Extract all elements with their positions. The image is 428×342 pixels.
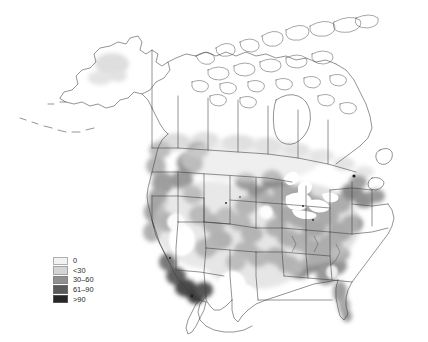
legend-item-61-90[interactable]: 61–90 bbox=[53, 285, 94, 295]
map-legend: 0 <30 30–60 61–90 >90 bbox=[53, 256, 94, 304]
figure-canvas: 0 <30 30–60 61–90 >90 bbox=[0, 0, 428, 342]
legend-swatch-lt30 bbox=[53, 266, 68, 275]
legend-label-lt30: <30 bbox=[73, 266, 86, 275]
legend-label-0: 0 bbox=[73, 256, 77, 265]
legend-label-30-60: 30–60 bbox=[73, 275, 94, 284]
legend-label-gt90: >90 bbox=[73, 295, 86, 304]
legend-label-61-90: 61–90 bbox=[73, 285, 94, 294]
legend-item-lt30[interactable]: <30 bbox=[53, 266, 94, 276]
legend-item-30-60[interactable]: 30–60 bbox=[53, 275, 94, 285]
legend-swatch-gt90 bbox=[53, 295, 68, 304]
legend-swatch-0 bbox=[53, 257, 68, 266]
legend-item-0[interactable]: 0 bbox=[53, 256, 94, 266]
legend-swatch-30-60 bbox=[53, 276, 68, 285]
legend-item-gt90[interactable]: >90 bbox=[53, 294, 94, 304]
legend-swatch-61-90 bbox=[53, 285, 68, 294]
